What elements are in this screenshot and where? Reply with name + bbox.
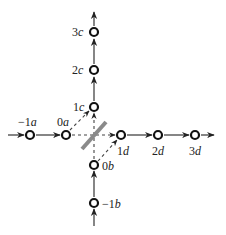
nodes — [26, 28, 199, 207]
node-3c — [90, 28, 98, 36]
node-3d — [191, 131, 199, 139]
node-1c — [90, 103, 98, 111]
node-m1b — [90, 199, 98, 207]
node-2c — [90, 66, 98, 74]
label-2d: 2d — [152, 144, 165, 158]
quantum-walk-diagram: 3c 2c 1c −1a 0a 1d 2d 3d 0b −1b — [0, 0, 226, 235]
node-2d — [154, 131, 162, 139]
dash-0b-1d — [98, 140, 117, 161]
node-0a — [62, 131, 70, 139]
label-2c: 2c — [72, 63, 84, 77]
label-3c: 3c — [72, 25, 84, 39]
label-1d: 1d — [117, 144, 130, 158]
label-0a: 0a — [57, 115, 69, 129]
node-0b — [90, 161, 98, 169]
label-m1a: −1a — [18, 115, 37, 129]
label-3d: 3d — [189, 144, 202, 158]
node-1d — [117, 131, 125, 139]
label-1c: 1c — [73, 100, 85, 114]
label-0b: 0b — [102, 159, 114, 173]
node-m1a — [26, 131, 34, 139]
label-m1b: −1b — [102, 197, 121, 211]
